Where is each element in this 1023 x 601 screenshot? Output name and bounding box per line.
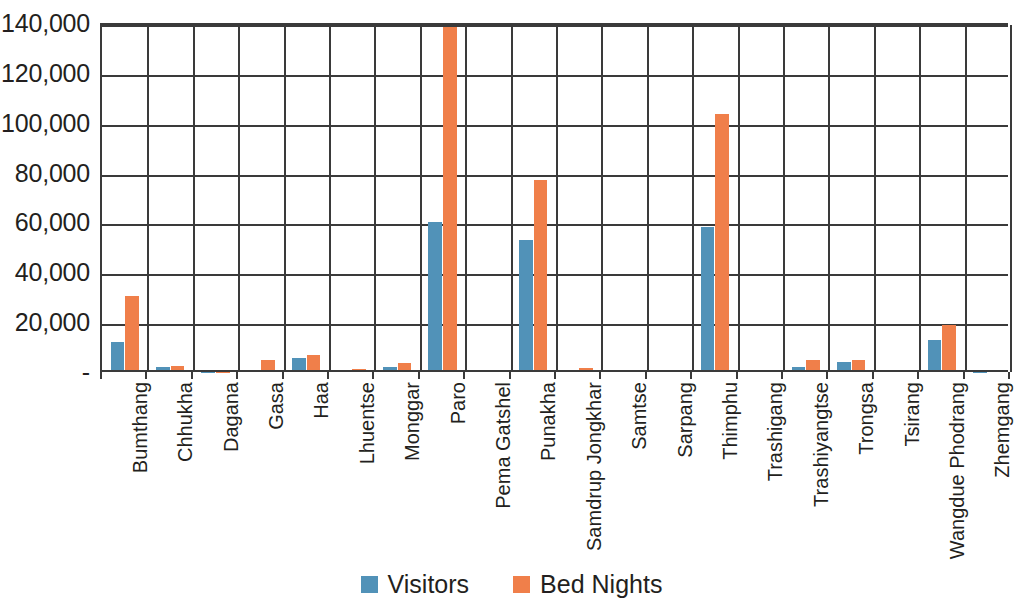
x-axis-tick — [418, 372, 420, 379]
bar-visitors — [519, 240, 533, 372]
x-axis-tick — [100, 372, 102, 379]
bar-group — [284, 25, 329, 372]
x-axis-tick — [645, 372, 647, 379]
bar-group — [692, 25, 737, 372]
x-axis-tick — [554, 372, 556, 379]
x-axis-category-label: Gasa — [266, 382, 286, 430]
bar-group — [828, 25, 873, 372]
x-axis-category-label: Dagana — [221, 382, 241, 452]
bar-group — [511, 25, 556, 372]
x-axis-tick — [191, 372, 193, 379]
x-axis-category-label: Monggar — [402, 382, 422, 461]
x-axis-category-label: Lhuentse — [357, 382, 377, 464]
y-axis-tick-label: 120,000 — [1, 60, 90, 85]
bar-group — [374, 25, 419, 372]
bar-group — [147, 25, 192, 372]
x-axis-category-label: Punakha — [538, 382, 558, 461]
bar-bed-nights — [715, 114, 729, 372]
x-axis-tick — [372, 372, 374, 379]
x-axis-category-label: Pema Gatshel — [493, 382, 513, 509]
x-axis-labels: BumthangChhukhaDaganaGasaHaaLhuentseMong… — [100, 380, 1008, 560]
x-axis-tick — [917, 372, 919, 379]
legend-swatch-visitors-icon — [361, 576, 378, 593]
x-axis-category-label: Trashigang — [765, 382, 785, 481]
plot-area — [100, 23, 1008, 372]
bar-bed-nights — [942, 325, 956, 372]
x-axis-tick — [282, 372, 284, 379]
bar-visitors — [111, 342, 125, 372]
bar-bed-nights — [534, 180, 548, 372]
bar-group — [102, 25, 147, 372]
bar-group — [601, 25, 646, 372]
bar-visitors — [428, 222, 442, 372]
bar-group — [919, 25, 964, 372]
bar-group — [647, 25, 692, 372]
x-axis-tick — [736, 372, 738, 379]
x-axis-category-label: Wangdue Phodrang — [947, 382, 967, 559]
x-axis-category-label: Haa — [311, 382, 331, 419]
legend-item-visitors: Visitors — [361, 572, 470, 597]
x-axis-category-label: Paro — [448, 382, 468, 424]
x-axis-category-label: Chhukha — [175, 382, 195, 462]
legend-label-visitors: Visitors — [388, 572, 470, 597]
x-axis-category-label: Samtse — [629, 382, 649, 450]
x-axis-category-label: Bumthang — [130, 382, 150, 473]
chart-legend: Visitors Bed Nights — [0, 568, 1023, 601]
gridline-vertical — [1010, 25, 1012, 372]
x-axis-tick — [236, 372, 238, 379]
bar-group — [965, 25, 1010, 372]
x-axis-tick — [599, 372, 601, 379]
bar-group — [738, 25, 783, 372]
y-axis-tick-label: 20,000 — [15, 310, 90, 335]
bar-group — [193, 25, 238, 372]
x-axis-tick — [963, 372, 965, 379]
x-axis-category-label: Sarpang — [675, 382, 695, 458]
bar-group — [420, 25, 465, 372]
legend-label-bed-nights: Bed Nights — [540, 572, 662, 597]
y-axis-tick-label: 40,000 — [15, 260, 90, 285]
bar-group — [556, 25, 601, 372]
bar-group — [874, 25, 919, 372]
x-axis-category-label: Zhemgang — [992, 382, 1012, 478]
bar-visitors — [701, 227, 715, 372]
x-axis-ticks — [100, 372, 1008, 380]
y-axis-tick-label: 80,000 — [15, 160, 90, 185]
x-axis-tick — [509, 372, 511, 379]
bars-layer — [102, 25, 1008, 372]
bar-chart: -20,00040,00060,00080,000100,000120,0001… — [0, 0, 1023, 601]
bar-bed-nights — [443, 27, 457, 372]
bar-bed-nights — [125, 296, 139, 372]
x-axis-tick — [690, 372, 692, 379]
y-axis-tick-label: 100,000 — [1, 110, 90, 135]
bar-visitors — [928, 340, 942, 372]
x-axis-category-label: Trashiyangtse — [811, 382, 831, 507]
legend-swatch-bed-nights-icon — [513, 576, 530, 593]
x-axis-tick — [872, 372, 874, 379]
bar-group — [783, 25, 828, 372]
legend-item-bed-nights: Bed Nights — [513, 572, 662, 597]
x-axis-category-label: Tsirang — [902, 382, 922, 446]
bar-group — [238, 25, 283, 372]
x-axis-tick — [826, 372, 828, 379]
x-axis-category-label: Thimphu — [720, 382, 740, 460]
x-axis-tick — [327, 372, 329, 379]
y-axis-tick-label: 140,000 — [1, 11, 90, 36]
y-axis-tick-label: - — [82, 360, 90, 385]
x-axis-category-label: Samdrup Jongkhar — [584, 382, 604, 551]
x-axis-tick — [463, 372, 465, 379]
bar-group — [329, 25, 374, 372]
y-axis-tick-label: 60,000 — [15, 210, 90, 235]
bar-group — [465, 25, 510, 372]
x-axis-tick — [1008, 372, 1010, 379]
x-axis-category-label: Trongsa — [856, 382, 876, 455]
y-axis: -20,00040,00060,00080,000100,000120,0001… — [0, 0, 98, 380]
x-axis-tick — [145, 372, 147, 379]
x-axis-tick — [781, 372, 783, 379]
